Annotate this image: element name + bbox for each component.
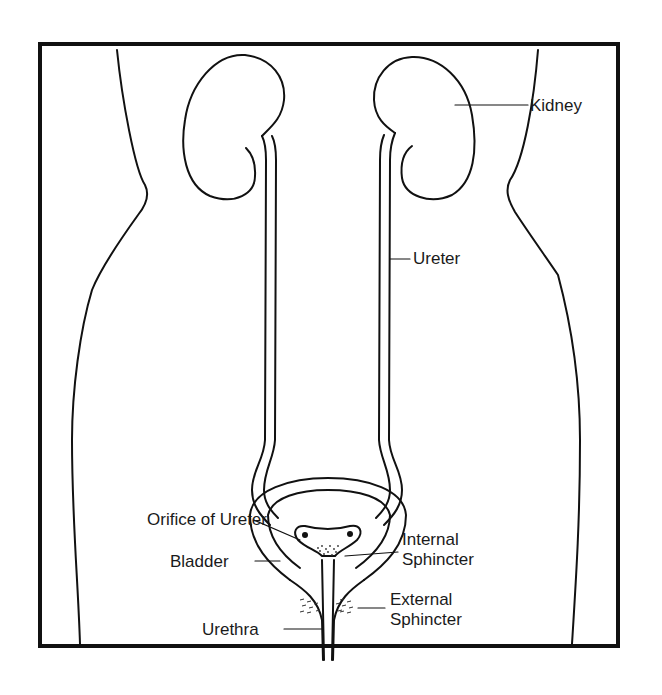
body-outline-right xyxy=(508,50,580,644)
right-ureter-outer xyxy=(384,133,402,525)
label-internal-sphincter-line1: Internal xyxy=(402,530,459,550)
left-ureter-outer xyxy=(252,136,270,525)
urethra-left xyxy=(290,580,323,660)
left-kidney xyxy=(183,55,284,199)
urethra-right xyxy=(333,580,364,660)
left-ureter-orifice xyxy=(302,532,308,538)
urinary-system-diagram: Kidney Ureter Orifice of Ureter Bladder … xyxy=(0,0,662,695)
label-external-sphincter-line2: Sphincter xyxy=(390,610,462,630)
label-ureter: Ureter xyxy=(413,249,460,269)
label-internal-sphincter-line2: Sphincter xyxy=(402,550,474,570)
label-orifice-of-ureter: Orifice of Ureter xyxy=(147,510,267,530)
external-sphincter-dashes xyxy=(300,599,353,613)
label-urethra: Urethra xyxy=(202,620,259,640)
label-bladder: Bladder xyxy=(170,552,229,572)
body-outline-left xyxy=(72,50,147,644)
right-ureter-orifice xyxy=(347,531,353,537)
label-external-sphincter-line1: External xyxy=(390,590,452,610)
right-ureter-inner xyxy=(376,135,390,518)
label-kidney: Kidney xyxy=(530,96,582,116)
